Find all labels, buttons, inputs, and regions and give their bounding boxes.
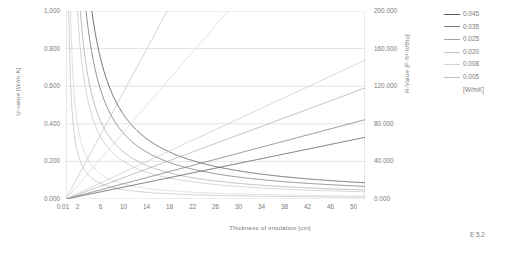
y-axis-left-title: U-value [W/m·K] [14, 37, 21, 147]
legend-unit-label: [W/mK] [444, 86, 506, 93]
legend-swatch [444, 14, 460, 15]
legend-label: 0.008 [463, 61, 479, 67]
y-axis-right-tick: 0.000 [374, 195, 414, 202]
legend-item: 0.020 [444, 46, 506, 59]
figure-e52: U-value [W/m·K] R-Value [F·ft²·h/Btu] Th… [0, 0, 511, 253]
y-axis-left-tick: 1.000 [26, 7, 60, 14]
legend-label: 0.020 [463, 49, 479, 55]
legend-item: 0.005 [444, 71, 506, 84]
legend-label: 0.005 [463, 74, 479, 80]
legend-swatch [444, 77, 460, 78]
legend: 0.0450.0350.0250.0200.0080.005[W/mK] [444, 8, 506, 93]
plot-area [66, 11, 365, 199]
series-line [66, 88, 365, 199]
y-axis-left-tick: 0.600 [26, 82, 60, 89]
figure-caption: E 5.2 [470, 231, 485, 238]
x-axis-tick: 50 [338, 203, 368, 210]
legend-label: 0.025 [463, 36, 479, 42]
series-line [81, 11, 365, 186]
legend-swatch [444, 64, 460, 65]
series-line [66, 120, 365, 199]
legend-label: 0.035 [463, 24, 479, 30]
y-axis-right-tick: 40.000 [374, 157, 414, 164]
x-axis-title: Thickness of insulation [cm] [160, 224, 380, 231]
series-line [66, 60, 365, 199]
series-line [68, 11, 365, 197]
x-axis-ticks: 0.01261014182226303438424650 [0, 203, 511, 217]
y-axis-right-tick: 120.000 [374, 82, 414, 89]
y-axis-left-tick: 0.400 [26, 120, 60, 127]
legend-swatch [444, 26, 460, 27]
legend-swatch [444, 52, 460, 53]
y-axis-right-tick: 200.000 [374, 7, 414, 14]
legend-swatch [444, 39, 460, 40]
chart-canvas [66, 11, 365, 199]
series-line [66, 11, 231, 199]
series-line [70, 11, 365, 196]
y-axis-left-tick: 0.200 [26, 157, 60, 164]
legend-item: 0.008 [444, 58, 506, 71]
legend-item: 0.045 [444, 8, 506, 21]
series-line [77, 11, 365, 190]
y-axis-right-tick: 80.000 [374, 120, 414, 127]
y-axis-left-tick: 0.800 [26, 45, 60, 52]
legend-item: 0.025 [444, 33, 506, 46]
y-axis-right-tick: 160.000 [374, 45, 414, 52]
legend-item: 0.035 [444, 21, 506, 34]
legend-label: 0.045 [463, 11, 479, 17]
y-axis-left-tick: 0.000 [26, 195, 60, 202]
